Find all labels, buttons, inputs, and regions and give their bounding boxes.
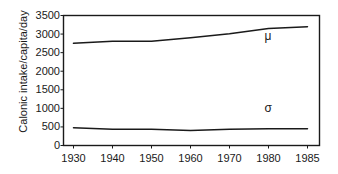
x-axis-tick-label: 1960	[178, 153, 202, 164]
plot-frame	[64, 16, 320, 146]
x-axis-tick-label: 1950	[139, 153, 163, 164]
x-axis-tick-label: 1930	[61, 153, 85, 164]
x-axis-tick-label: 1980	[256, 153, 280, 164]
series-label-sigma: σ	[265, 102, 272, 114]
plot-area	[0, 0, 338, 174]
x-axis-tick-label: 1985	[295, 153, 319, 164]
x-axis-tick-label: 1970	[217, 153, 241, 164]
x-axis-tick-label-group: 1930194019501960197019801985	[63, 150, 320, 170]
chart-container: Calonic intake/capita/day 05001000150020…	[0, 0, 338, 174]
series-label-mu: μ	[265, 30, 272, 42]
x-axis-tick-label: 1940	[100, 153, 124, 164]
